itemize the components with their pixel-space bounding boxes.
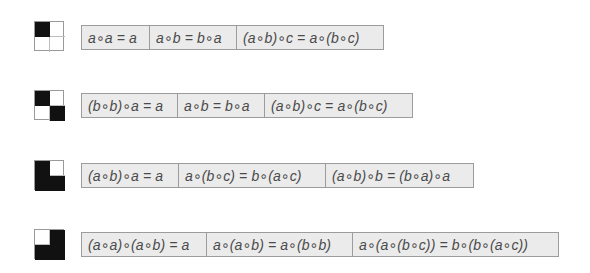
formula-cell: a∘b = b∘a	[150, 26, 237, 49]
identity-row-4: (a∘a)∘(a∘b) = a a∘(a∘b) = a∘(b∘b) a∘(a∘(…	[0, 229, 590, 261]
formula-box: (a∘b)∘a = a a∘(b∘c) = b∘(a∘c) (a∘b)∘b = …	[81, 163, 474, 188]
formula-cell: a∘(b∘c) = b∘(a∘c)	[179, 164, 326, 187]
formula-cell: a∘(a∘b) = a∘(b∘b)	[207, 233, 353, 256]
grid-cell-white	[50, 91, 65, 106]
grid-icon-three-black-top-right-white	[34, 160, 64, 190]
identity-row-1: a∘a = a a∘b = b∘a (a∘b)∘c = a∘(b∘c)	[0, 21, 590, 53]
formula-cell: (b∘b)∘a = a	[82, 94, 178, 117]
grid-cell-white	[35, 37, 50, 52]
grid-cell-black	[35, 91, 50, 106]
grid-icon-top-left-black	[34, 21, 64, 51]
grid-cell-black	[35, 22, 50, 37]
grid-cell-black	[50, 230, 65, 245]
grid-cell-white	[35, 106, 50, 121]
grid-cell-black	[35, 176, 50, 191]
formula-cell: (a∘b)∘b = (b∘a)∘a	[326, 164, 473, 187]
identity-row-3: (a∘b)∘a = a a∘(b∘c) = b∘(a∘c) (a∘b)∘b = …	[0, 160, 590, 192]
grid-cell-white	[35, 230, 50, 245]
formula-cell: a∘b = b∘a	[178, 94, 265, 117]
grid-cell-black	[35, 161, 50, 176]
grid-cell-white	[50, 22, 65, 37]
formula-cell: a∘a = a	[82, 26, 150, 49]
grid-cell-black	[50, 176, 65, 191]
formula-cell: (a∘b)∘a = a	[82, 164, 179, 187]
grid-cell-black	[35, 245, 50, 260]
grid-cell-white	[50, 37, 65, 52]
formula-box: (b∘b)∘a = a a∘b = b∘a (a∘b)∘c = a∘(b∘c)	[81, 93, 413, 118]
formula-cell: (a∘b)∘c = a∘(b∘c)	[265, 94, 412, 117]
formula-cell: a∘(a∘(b∘c)) = b∘(b∘(a∘c))	[353, 233, 558, 256]
grid-icon-diagonal-black	[34, 90, 64, 120]
formula-box: (a∘a)∘(a∘b) = a a∘(a∘b) = a∘(b∘b) a∘(a∘(…	[81, 232, 559, 257]
identity-row-2: (b∘b)∘a = a a∘b = b∘a (a∘b)∘c = a∘(b∘c)	[0, 90, 590, 122]
formula-box: a∘a = a a∘b = b∘a (a∘b)∘c = a∘(b∘c)	[81, 25, 384, 50]
grid-cell-black	[50, 245, 65, 260]
grid-icon-three-black-top-left-white	[34, 229, 64, 259]
grid-cell-white	[50, 161, 65, 176]
formula-cell: (a∘b)∘c = a∘(b∘c)	[237, 26, 383, 49]
formula-cell: (a∘a)∘(a∘b) = a	[82, 233, 207, 256]
grid-cell-black	[50, 106, 65, 121]
